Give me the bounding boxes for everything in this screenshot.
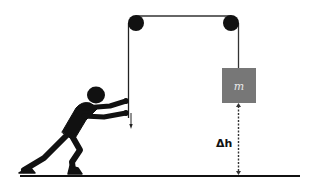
height-indicator [236, 103, 241, 175]
mass-label: m [234, 80, 244, 93]
right-pulley-icon [223, 15, 239, 31]
height-change-label: Δh [216, 137, 232, 150]
pulley-diagram: m Δh [0, 0, 315, 185]
left-pulley-icon [128, 15, 144, 31]
person-silhouette-icon [19, 87, 129, 175]
pull-direction-arrow-icon [129, 113, 132, 129]
mass-block: m [222, 68, 256, 103]
